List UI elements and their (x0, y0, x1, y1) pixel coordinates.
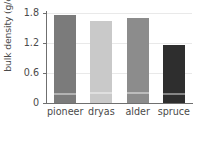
plot-area (47, 11, 192, 103)
bar-segment-divider (54, 93, 76, 95)
y-tick-label: 0 (33, 98, 39, 108)
bar-segment-divider (163, 93, 185, 95)
y-tick-label: 1.8 (24, 8, 39, 18)
bar (127, 18, 149, 103)
y-tick-mark (43, 103, 47, 104)
y-axis-title-text: bulk density (g/cm (2, 0, 13, 72)
x-axis-line (43, 103, 193, 104)
bar-chart: bulk density (g/cm3) 00.61.21.8 pioneerd… (0, 0, 198, 142)
x-tick-label-pioneer: pioneer (47, 106, 83, 118)
bar-segment-divider (127, 92, 149, 94)
bar-segment-divider (90, 92, 112, 94)
x-tick-label-alder: alder (120, 106, 156, 118)
bar (54, 15, 76, 103)
bar (163, 45, 185, 103)
y-axis-title: bulk density (g/cm3) (2, 0, 16, 72)
x-axis-labels: pioneerdryasalderspruce (47, 106, 192, 122)
x-tick-label-spruce: spruce (156, 106, 192, 118)
x-tick-label-dryas: dryas (83, 106, 119, 118)
y-tick-label: 0.6 (24, 68, 39, 78)
bar (90, 21, 112, 103)
y-tick-label: 1.2 (24, 38, 39, 48)
